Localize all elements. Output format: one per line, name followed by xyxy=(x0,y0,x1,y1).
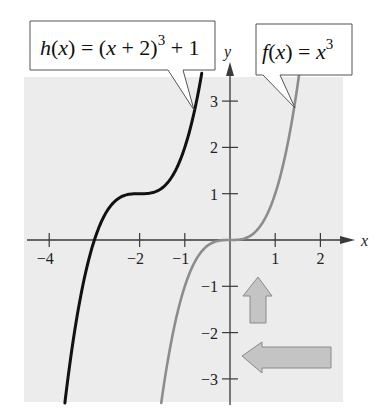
y-axis-label: y xyxy=(222,43,232,61)
f-callout-text: f(x) = x3 xyxy=(262,36,333,64)
y-tick-label: −3 xyxy=(201,371,218,388)
y-axis-arrow-icon xyxy=(226,62,234,76)
x-tick-label: −1 xyxy=(172,250,189,267)
h-callout-text: h(x) = (x + 2)3 + 1 xyxy=(40,32,200,60)
y-tick-label: −2 xyxy=(201,325,218,342)
x-tick-label: −4 xyxy=(37,250,54,267)
cubic-transformation-chart: −4−2−112 −3−2−1123 x y h(x) = (x + 2)3 +… xyxy=(0,0,389,420)
y-tick-label: 2 xyxy=(210,139,218,156)
x-tick-label: 2 xyxy=(316,250,324,267)
x-tick-label: −2 xyxy=(127,250,144,267)
x-axis-label: x xyxy=(360,232,368,249)
y-tick-label: 1 xyxy=(210,186,218,203)
y-tick-label: 3 xyxy=(210,93,218,110)
x-tick-label: 1 xyxy=(271,250,279,267)
x-axis-arrow-icon xyxy=(340,236,355,244)
y-tick-label: −1 xyxy=(201,278,218,295)
